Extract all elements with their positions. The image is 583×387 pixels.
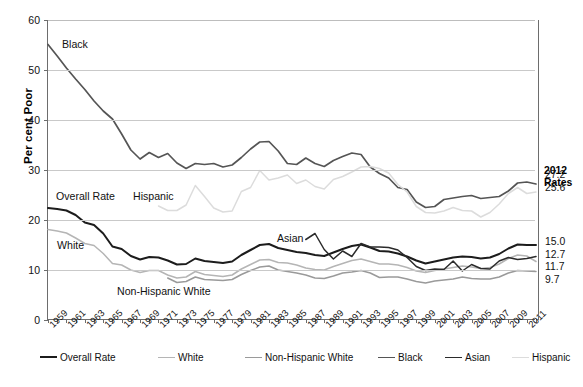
- legend-swatch-icon: [445, 357, 462, 358]
- y-axis-tick-labels: 0102030405060: [8, 0, 40, 387]
- gridline: [48, 220, 535, 221]
- legend-label: Overall Rate: [60, 352, 116, 363]
- gridline: [48, 270, 535, 271]
- legend-item-hispanic[interactable]: Hispanic: [512, 352, 570, 363]
- chart-legend: Overall RateWhiteNon-Hispanic WhiteBlack…: [40, 352, 560, 368]
- rate-value-white: 11.7: [545, 261, 564, 272]
- legend-label: Hispanic: [532, 352, 570, 363]
- y-tick-30: 30: [12, 165, 40, 176]
- legend-label: Asian: [465, 352, 490, 363]
- annotation-non-hispanic-white: Non-Hispanic White: [117, 285, 211, 297]
- y-tick-10: 10: [12, 265, 40, 276]
- rate-value-black: 27.2: [545, 169, 565, 180]
- legend-swatch-icon: [158, 357, 175, 358]
- annotation-hispanic: Hispanic: [133, 190, 174, 202]
- gridline: [48, 120, 535, 121]
- annotation-asian: Asian: [277, 232, 304, 244]
- y-tick-50: 50: [12, 65, 40, 76]
- y-tick-20: 20: [12, 215, 40, 226]
- line-hispanic: [158, 167, 536, 218]
- gridline: [48, 170, 535, 171]
- y-tick-0: 0: [12, 315, 40, 326]
- plot-area: [47, 20, 535, 320]
- rate-value-overall-rate: 15.0: [545, 236, 565, 247]
- rate-value-asian: 12.7: [545, 249, 565, 260]
- annotation-black: Black: [62, 38, 88, 50]
- legend-item-asian[interactable]: Asian: [445, 352, 490, 363]
- rate-value-hispanic: 25.6: [545, 182, 565, 193]
- legend-item-overall-rate[interactable]: Overall Rate: [40, 352, 116, 363]
- chart-figure: Per cent Poor 0102030405060 195919611963…: [0, 0, 583, 387]
- legend-label: White: [178, 352, 204, 363]
- rate-value-non-hispanic-white: 9.7: [545, 274, 559, 285]
- y-tick-60: 60: [12, 15, 40, 26]
- y-tickmark: [44, 20, 48, 21]
- legend-swatch-icon: [245, 357, 262, 358]
- annotation-overall-rate: Overall Rate: [56, 190, 115, 202]
- rates-panel-divider: [538, 20, 539, 320]
- legend-item-black[interactable]: Black: [378, 352, 422, 363]
- legend-item-white[interactable]: White: [158, 352, 204, 363]
- legend-label: Non-Hispanic White: [265, 352, 353, 363]
- y-tick-40: 40: [12, 115, 40, 126]
- gridline: [48, 70, 535, 71]
- annotation-white: White: [57, 239, 84, 251]
- legend-swatch-icon: [512, 357, 529, 358]
- legend-label: Black: [398, 352, 422, 363]
- legend-item-non-hispanic-white[interactable]: Non-Hispanic White: [245, 352, 353, 363]
- line-black: [48, 45, 536, 208]
- legend-swatch-icon: [40, 356, 57, 358]
- legend-swatch-icon: [378, 357, 395, 358]
